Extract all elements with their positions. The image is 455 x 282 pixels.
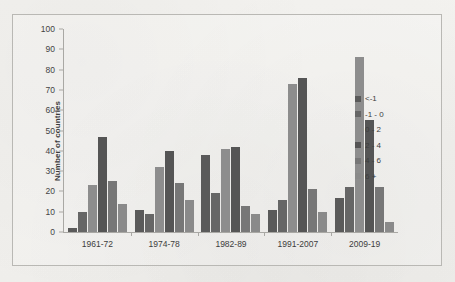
bar [308, 189, 317, 232]
legend-label: 4 - 6 [365, 156, 381, 165]
bar [201, 155, 210, 232]
legend-swatch-icon [355, 127, 361, 133]
bar [175, 183, 184, 232]
legend-item: 2 - 4 [355, 138, 425, 154]
bar [231, 147, 240, 232]
y-tick-label: 10 [46, 207, 55, 217]
bar [155, 167, 164, 232]
bars-container [64, 29, 398, 232]
bar [268, 210, 277, 232]
y-tick-label: 50 [46, 126, 55, 136]
bar [288, 84, 297, 232]
bar-group [131, 29, 198, 232]
x-category-label: 2009-19 [349, 239, 380, 249]
legend-swatch-icon [355, 142, 361, 148]
plot-area-wrapper: Number of countries 01020304050607080901… [13, 15, 441, 265]
bar [385, 222, 394, 232]
bar [68, 228, 77, 232]
bar [241, 206, 250, 232]
legend-swatch-icon [355, 173, 361, 179]
y-axis-tick-labels: 0102030405060708090100 [29, 15, 59, 267]
chart-figure: Number of countries 01020304050607080901… [12, 14, 442, 266]
bar [211, 193, 220, 232]
bar [145, 214, 154, 232]
bar [318, 212, 327, 232]
bar [298, 78, 307, 232]
legend-label: -1 - 0 [365, 110, 384, 119]
x-category-label: 1974-78 [149, 239, 180, 249]
y-tick-label: 60 [46, 105, 55, 115]
bar [375, 187, 384, 232]
bar [108, 181, 117, 232]
legend-swatch-icon [355, 158, 361, 164]
legend-swatch-icon [355, 96, 361, 102]
x-category-label: 1961-72 [82, 239, 113, 249]
x-axis-separator [131, 232, 132, 236]
bar [78, 212, 87, 232]
x-axis-line [63, 232, 398, 233]
legend-label: 0 - 2 [365, 125, 381, 134]
y-tick-label: 80 [46, 65, 55, 75]
bar [221, 149, 230, 232]
bar [135, 210, 144, 232]
legend-item: <-1 [355, 91, 425, 107]
bar [118, 204, 127, 232]
legend-label: 6 + [365, 172, 376, 181]
x-axis-separator [264, 232, 265, 236]
x-axis-separator [331, 232, 332, 236]
bar [345, 187, 354, 232]
bar-group [64, 29, 131, 232]
legend-item: 4 - 6 [355, 153, 425, 169]
bar [98, 137, 107, 232]
bar [165, 151, 174, 232]
y-tick-label: 90 [46, 44, 55, 54]
bar [251, 214, 260, 232]
legend-item: 0 - 2 [355, 122, 425, 138]
x-category-label: 1982-89 [215, 239, 246, 249]
y-tick-label: 70 [46, 85, 55, 95]
legend-item: 6 + [355, 169, 425, 185]
y-tick-label: 30 [46, 166, 55, 176]
x-category-label: 1991-2007 [277, 239, 318, 249]
y-tick-label: 20 [46, 186, 55, 196]
bar [88, 185, 97, 232]
x-axis-separator [198, 232, 199, 236]
y-tick-label: 40 [46, 146, 55, 156]
legend-label: 2 - 4 [365, 141, 381, 150]
y-tick-label: 100 [41, 24, 55, 34]
bar-group [198, 29, 265, 232]
chart-legend: <-1-1 - 00 - 22 - 44 - 66 + [355, 91, 425, 184]
bar [278, 200, 287, 232]
legend-label: <-1 [365, 94, 377, 103]
legend-item: -1 - 0 [355, 107, 425, 123]
legend-swatch-icon [355, 111, 361, 117]
bar [335, 198, 344, 233]
bar [185, 200, 194, 232]
y-tick-label: 0 [50, 227, 55, 237]
bar-group [264, 29, 331, 232]
